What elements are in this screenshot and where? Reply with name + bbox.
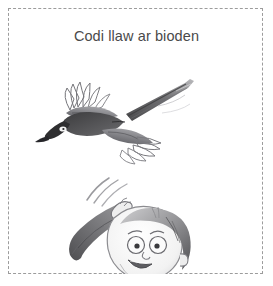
boy	[69, 178, 191, 274]
boy-ear	[180, 254, 188, 266]
bird-beak	[35, 136, 49, 142]
illustration-pencil-sketch	[8, 58, 263, 274]
bird-head	[35, 121, 70, 142]
bird-long-tail	[126, 79, 194, 121]
bird-magpie	[35, 79, 194, 164]
flashcard: Codi llaw ar bioden	[0, 0, 273, 286]
boy-head	[107, 206, 190, 274]
bird-lower-wing	[102, 128, 161, 164]
page-title: Codi llaw ar bioden	[0, 28, 273, 44]
